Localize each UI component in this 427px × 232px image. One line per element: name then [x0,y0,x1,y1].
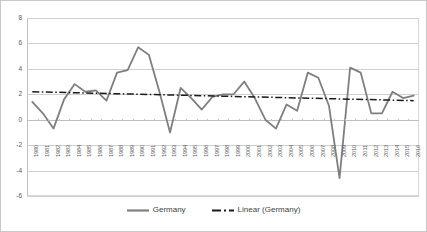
y-tick-label: 8 [18,15,22,22]
y-tick-label: -4 [16,167,22,174]
legend-label-linear-germany: Linear (Germany) [238,206,301,214]
germany-series-line [32,47,413,178]
y-tick-label: -6 [16,193,22,200]
chart-frame: 86420-2-4-6 1980198119821983198419851986… [0,0,427,232]
series-layer [27,18,419,196]
y-tick-label: 4 [18,66,22,73]
chart-legend: Germany Linear (Germany) [1,200,426,220]
y-axis: 86420-2-4-6 [1,18,25,196]
legend-item-linear-germany[interactable]: Linear (Germany) [212,206,301,215]
y-tick-label: 2 [18,91,22,98]
legend-label-germany: Germany [153,206,186,214]
y-tick-label: 6 [18,40,22,47]
legend-item-germany[interactable]: Germany [127,206,186,215]
y-tick-label: 0 [18,116,22,123]
linear-trendline [32,92,413,101]
y-tick-label: -2 [16,142,22,149]
dash-dot-line-swatch [212,206,234,215]
gridline-neg6 [27,196,419,197]
solid-line-swatch [127,206,149,215]
plot-area [27,18,419,196]
